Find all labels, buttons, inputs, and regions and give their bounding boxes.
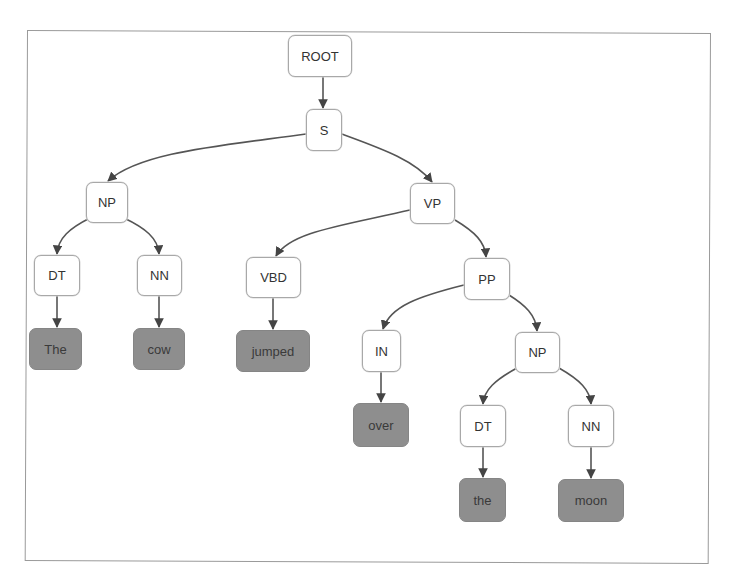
leaf-label: jumped (252, 344, 295, 359)
node-s[interactable]: S (306, 109, 342, 151)
node-vbd[interactable]: VBD (246, 257, 301, 298)
node-label: NN (150, 268, 169, 283)
node-label: NP (528, 345, 546, 360)
leaf-moon[interactable]: moon (558, 479, 624, 522)
node-label: DT (48, 268, 65, 283)
node-np[interactable]: NP (86, 182, 128, 223)
leaf-label: cow (147, 342, 170, 357)
node-root[interactable]: ROOT (288, 35, 352, 77)
node-label: IN (375, 344, 388, 359)
node-nn[interactable]: NN (137, 255, 182, 296)
leaf-label: over (368, 418, 393, 433)
leaf-the-object[interactable]: the (459, 478, 506, 522)
node-dt[interactable]: DT (34, 255, 80, 296)
node-label: DT (474, 419, 491, 434)
node-label: NP (98, 195, 116, 210)
node-vp[interactable]: VP (410, 183, 455, 224)
leaf-over[interactable]: over (353, 403, 409, 447)
leaf-label: The (44, 342, 66, 357)
leaf-cow[interactable]: cow (133, 328, 185, 370)
node-pp[interactable]: PP (464, 258, 510, 300)
leaf-label: the (473, 493, 491, 508)
node-in[interactable]: IN (362, 330, 401, 372)
leaf-the[interactable]: The (29, 328, 82, 370)
node-label: PP (478, 272, 495, 287)
node-label: ROOT (301, 49, 339, 64)
node-label: NN (582, 419, 601, 434)
node-nn-object[interactable]: NN (568, 405, 614, 447)
leaf-label: moon (575, 493, 608, 508)
node-label: S (320, 123, 329, 138)
node-label: VP (424, 196, 441, 211)
node-label: VBD (260, 270, 287, 285)
leaf-jumped[interactable]: jumped (236, 330, 310, 372)
node-dt-object[interactable]: DT (460, 405, 506, 447)
node-np-object[interactable]: NP (515, 332, 560, 373)
